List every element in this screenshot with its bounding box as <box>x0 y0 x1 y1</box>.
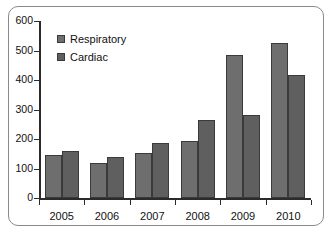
x-tick-mark <box>39 200 40 205</box>
bar-respiratory-2009 <box>226 55 243 198</box>
bar-cardiac-2009 <box>243 115 260 198</box>
bar-respiratory-2006 <box>90 163 107 198</box>
x-axis-label-2009: 2009 <box>223 209 263 223</box>
x-tick-mark <box>130 200 131 205</box>
bar-respiratory-2005 <box>45 155 62 198</box>
x-axis-label-2006: 2006 <box>87 209 127 223</box>
bar-group <box>181 21 215 198</box>
y-tick-label: 500 <box>5 44 33 57</box>
x-axis-label-2010: 2010 <box>268 209 308 223</box>
y-tick-label: 400 <box>5 73 33 86</box>
bar-cardiac-2007 <box>152 143 169 198</box>
y-tick-label: 300 <box>5 103 33 116</box>
x-axis-label-2008: 2008 <box>178 209 218 223</box>
bar-respiratory-2008 <box>181 141 198 198</box>
y-tick-label: 100 <box>5 162 33 175</box>
legend-swatch-icon <box>57 35 65 43</box>
bar-respiratory-2010 <box>271 43 288 198</box>
y-tick-mark <box>34 51 39 52</box>
y-tick-mark <box>34 139 39 140</box>
x-tick-mark <box>311 200 312 205</box>
chart-legend: RespiratoryCardiac <box>57 31 126 67</box>
x-tick-mark <box>266 200 267 205</box>
y-tick-mark <box>34 110 39 111</box>
bar-group <box>226 21 260 198</box>
x-axis-label-2007: 2007 <box>132 209 172 223</box>
legend-label: Respiratory <box>70 32 126 46</box>
bar-respiratory-2007 <box>135 153 152 198</box>
x-tick-mark <box>220 200 221 205</box>
y-tick-mark <box>34 198 39 199</box>
legend-item-respiratory[interactable]: Respiratory <box>57 31 126 47</box>
y-tick-label: 0 <box>5 191 33 204</box>
legend-item-cardiac[interactable]: Cardiac <box>57 49 126 65</box>
bar-cardiac-2005 <box>62 151 79 198</box>
y-tick-mark <box>34 169 39 170</box>
bar-group <box>135 21 169 198</box>
chart-card: 0100200300400500600 20052006200720082009… <box>8 6 324 226</box>
x-axis-label-2005: 2005 <box>42 209 82 223</box>
y-tick-label: 600 <box>5 14 33 27</box>
y-tick-label: 200 <box>5 132 33 145</box>
y-tick-mark <box>34 21 39 22</box>
legend-swatch-icon <box>57 53 65 61</box>
bar-group <box>271 21 305 198</box>
bar-cardiac-2006 <box>107 157 124 198</box>
legend-label: Cardiac <box>70 50 108 64</box>
y-tick-mark <box>34 80 39 81</box>
x-tick-mark <box>84 200 85 205</box>
bar-cardiac-2008 <box>198 120 215 198</box>
x-tick-mark <box>175 200 176 205</box>
bar-cardiac-2010 <box>288 75 305 198</box>
y-axis-line <box>39 21 41 199</box>
